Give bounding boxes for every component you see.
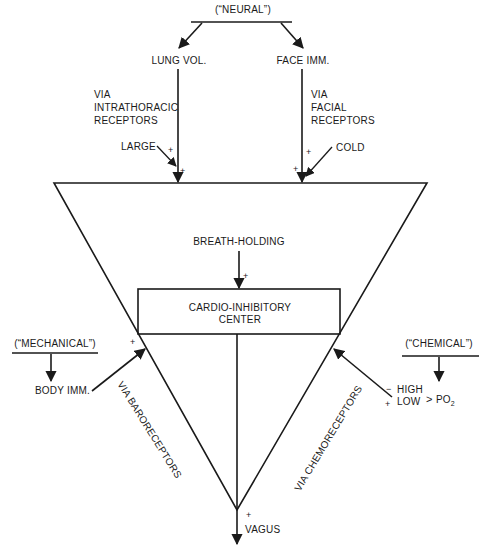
neural-label: (“NEURAL”) — [215, 4, 271, 15]
mechanical-group: (“MECHANICAL”) BODY IMM. + VIA BARORECEP… — [12, 337, 184, 480]
baroreceptors-label: VIA BARORECEPTORS — [115, 379, 184, 480]
reflex-diagram: (“NEURAL”) LUNG VOL. VIA INTRATHORACIC R… — [0, 0, 491, 551]
face-imm-label: FACE IMM. — [277, 55, 330, 66]
center-line1: CARDIO-INHIBITORY — [189, 302, 292, 313]
face-imm-branch: FACE IMM. VIA FACIAL RECEPTORS COLD + + — [277, 55, 375, 182]
lung-vol-label: LUNG VOL. — [151, 55, 206, 66]
neural-group: (“NEURAL”) — [179, 4, 303, 48]
po2-plus: + — [385, 399, 390, 409]
chemoreceptors-label: VIA CHEMORECEPTORS — [292, 383, 364, 493]
po2-bracket: > — [426, 393, 433, 405]
large-label: LARGE — [121, 141, 156, 152]
facial-line3: RECEPTORS — [311, 115, 375, 126]
large-plus: + — [168, 145, 173, 155]
chemical-label: (“CHEMICAL”) — [405, 338, 472, 349]
facial-line2: FACIAL — [311, 102, 347, 113]
neural-arrow-right — [281, 23, 303, 48]
po2-high: HIGH — [397, 384, 423, 395]
po2-param-main: PO — [436, 394, 451, 405]
breath-holding-input: BREATH-HOLDING + — [193, 236, 285, 288]
facial-line1: VIA — [311, 89, 328, 100]
cold-label: COLD — [336, 142, 365, 153]
intrathoracic-line3: RECEPTORS — [94, 115, 158, 126]
po2-low: LOW — [397, 396, 421, 407]
integration-triangle — [54, 183, 427, 510]
mechanical-label: (“MECHANICAL”) — [14, 338, 96, 349]
baro-plus: + — [130, 337, 135, 347]
lung-vol-branch: LUNG VOL. VIA INTRATHORACIC RECEPTORS LA… — [94, 55, 207, 182]
center-line2: CENTER — [219, 314, 261, 325]
cold-plus: + — [306, 147, 311, 157]
body-imm-label: BODY IMM. — [35, 385, 90, 396]
breath-holding-label: BREATH-HOLDING — [193, 236, 285, 247]
chemical-group: (“CHEMICAL”) − + HIGH LOW > PO2 VIA CHEM… — [292, 338, 479, 493]
lung-plus: + — [180, 166, 185, 176]
po2-minus: − — [386, 384, 391, 394]
neural-arrow-left — [179, 23, 202, 48]
intrathoracic-line1: VIA — [94, 89, 111, 100]
po2-param: PO2 — [436, 394, 455, 407]
breath-holding-plus: + — [243, 271, 248, 281]
vagus-label: VAGUS — [245, 524, 280, 535]
vagus-output: + VAGUS — [237, 510, 280, 544]
vagus-plus: + — [246, 510, 251, 520]
intrathoracic-line2: INTRATHORACIC — [94, 102, 178, 113]
cardio-inhibitory-center: CARDIO-INHIBITORY CENTER — [138, 289, 340, 334]
face-plus: + — [293, 164, 298, 174]
po2-param-sub: 2 — [451, 400, 455, 407]
